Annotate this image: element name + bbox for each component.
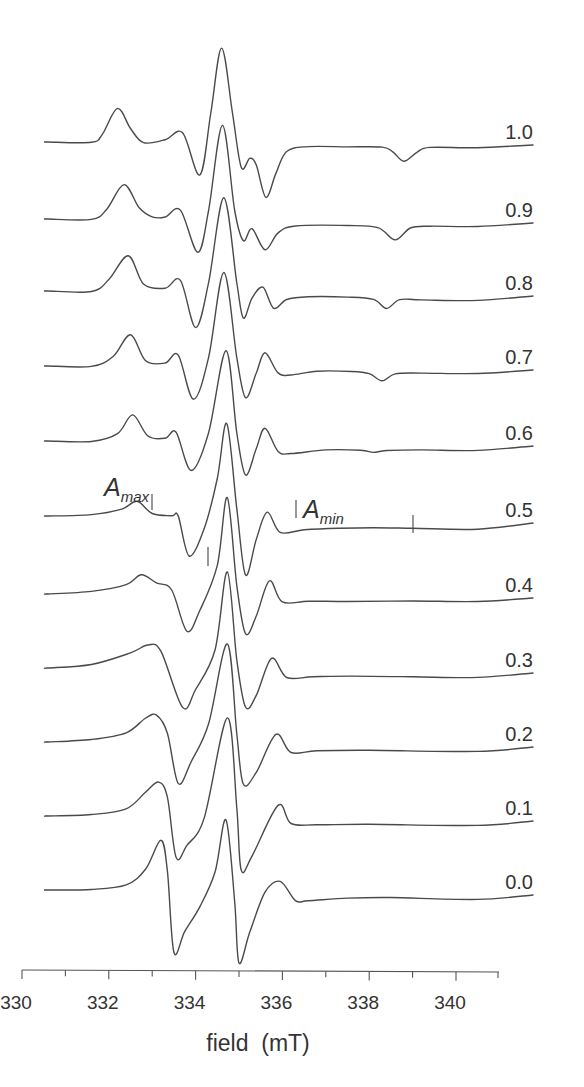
annotation-amin: Amin	[301, 495, 344, 527]
tick-label: 336	[261, 992, 293, 1013]
trace-0-2	[44, 644, 533, 786]
trace-labels: 1.00.90.80.70.60.50.40.30.20.10.0	[505, 121, 533, 893]
trace-label-0-1: 0.1	[505, 797, 533, 819]
trace-label-0-3: 0.3	[505, 649, 533, 671]
trace-label-0-0: 0.0	[505, 871, 533, 893]
trace-label-0-5: 0.5	[505, 499, 533, 521]
trace-0-7	[44, 272, 533, 399]
trace-label-0-9: 0.9	[505, 199, 533, 221]
x-axis-tick-labels: 330332334336338340	[0, 992, 466, 1013]
trace-label-0-8: 0.8	[505, 272, 533, 294]
x-axis: 330332334336338340 field (mT)	[0, 970, 499, 1056]
amax-subscript: max	[121, 488, 150, 505]
trace-0-8	[44, 198, 533, 328]
x-axis-line	[22, 970, 499, 972]
trace-1-0	[44, 48, 533, 197]
tick-label: 338	[347, 992, 379, 1013]
tick-label: 334	[174, 992, 206, 1013]
spectra-traces	[44, 48, 533, 964]
trace-label-0-7: 0.7	[505, 346, 533, 368]
trace-0-3	[44, 572, 533, 709]
trace-0-6	[44, 351, 533, 475]
trace-0-4	[44, 497, 533, 634]
epr-spectra-chart: 1.00.90.80.70.60.50.40.30.20.10.0 Amax A…	[0, 0, 584, 1087]
annotation-amax: Amax	[102, 473, 150, 505]
amin-letter: A	[301, 495, 320, 523]
trace-label-1-0: 1.0	[505, 121, 533, 143]
tick-label: 332	[87, 992, 119, 1013]
trace-0-1	[44, 718, 533, 873]
x-axis-title: field (mT)	[206, 1030, 310, 1056]
trace-0-0	[44, 819, 533, 963]
tick-label: 340	[434, 992, 466, 1013]
trace-label-0-4: 0.4	[505, 574, 533, 596]
trace-label-0-6: 0.6	[505, 422, 533, 444]
trace-0-9	[44, 125, 533, 252]
trace-label-0-2: 0.2	[505, 723, 533, 745]
tick-label: 330	[0, 992, 32, 1013]
amin-subscript: min	[320, 510, 344, 527]
amax-letter: A	[102, 473, 121, 501]
